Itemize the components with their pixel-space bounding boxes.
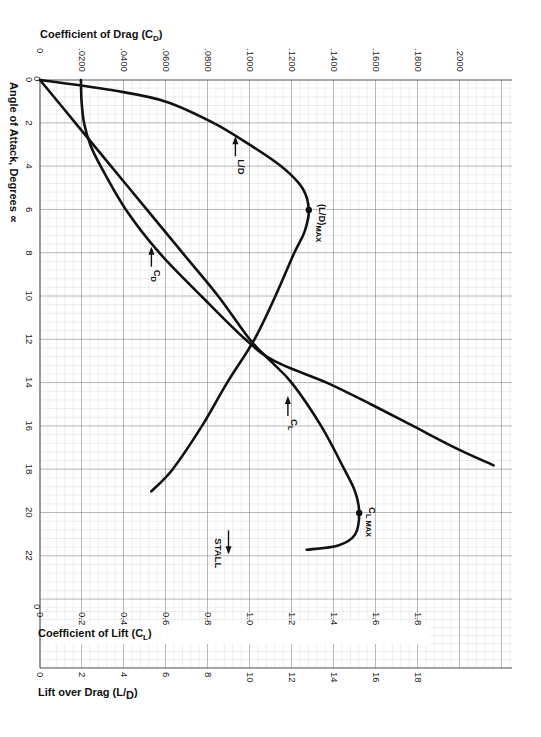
lift-tick-label: 1.6: [371, 612, 382, 625]
angle-tick-label: 16: [24, 420, 35, 431]
angle-tick-label: 2: [24, 120, 35, 125]
lift-tick-label: 1.4: [329, 612, 340, 625]
main-grid: [40, 80, 512, 608]
lift-tick-label: 1.8: [413, 612, 424, 625]
angle-tick-label: 6: [24, 207, 35, 212]
lift-over-drag-tick-label: 0: [35, 672, 46, 677]
svg-text:L/D: L/D: [236, 159, 247, 174]
drag-tick-label: .0200: [77, 48, 88, 72]
angle-tick-label: 20: [24, 507, 35, 518]
lift-over-drag-tick-label: 12: [287, 672, 298, 683]
lift-tick-label: 0.2: [77, 612, 88, 625]
lift-over-drag-tick-label: 8: [203, 672, 214, 677]
lift-over-drag-tick-label: 16: [371, 672, 382, 683]
drag-tick-label: .0800: [203, 48, 214, 72]
lift-over-drag-tick-label: 18: [413, 672, 424, 683]
svg-text:Lift over Drag (L/D): Lift over Drag (L/D): [38, 686, 138, 701]
lift-over-drag-tick-label: 14: [329, 672, 340, 683]
drag-tick-label: .1600: [371, 48, 382, 72]
lift-over-drag-tick-label: 6: [161, 672, 172, 677]
lift-over-drag-tick-label: 2: [77, 672, 88, 677]
angle-axis-title: Angle of Attack, Degrees ∝: [8, 82, 20, 223]
lift-tick-label: 0: [35, 612, 46, 617]
angle-tick-label: 0: [32, 604, 43, 609]
drag-axis-ticks: 0.0200.0400.0600.0800.1000.1200.1400.160…: [35, 48, 466, 72]
drag-tick-label: .0600: [161, 48, 172, 72]
drag-tick-label: .1800: [413, 48, 424, 72]
lift-over-drag-tick-label: 10: [245, 672, 256, 683]
drag-tick-label: 0: [35, 48, 46, 53]
lift-over-drag-axis-ticks: 024681012141618: [35, 672, 424, 683]
angle-tick-label: 12: [24, 334, 35, 345]
aero-performance-chart: Coefficient of Drag (CD) 0.0200.0400.060…: [0, 0, 541, 737]
angle-tick-label: 0: [24, 77, 35, 82]
drag-tick-label: .1400: [329, 48, 340, 72]
angle-tick-label: 22: [24, 550, 35, 561]
svg-text:Coefficient of Drag (CD): Coefficient of Drag (CD): [40, 28, 163, 43]
angle-tick-label: 18: [24, 464, 35, 475]
drag-tick-label: .1000: [245, 48, 256, 72]
drag-tick-label: .1200: [287, 48, 298, 72]
lift-tick-label: 1.0: [245, 612, 256, 625]
angle-tick-label: 4: [24, 164, 35, 169]
drag-tick-label: .0400: [119, 48, 130, 72]
lift-over-drag-axis-title: Lift over Drag (L/D): [38, 686, 138, 701]
drag-axis-title: Coefficient of Drag (CD): [40, 28, 163, 43]
angle-tick-label: 8: [24, 250, 35, 255]
lift-tick-label: 0.4: [119, 612, 130, 625]
angle-tick-label: 10: [24, 291, 35, 302]
lift-tick-label: 0.6: [161, 612, 172, 625]
svg-text:STALL: STALL: [213, 538, 224, 568]
angle-tick-label: 14: [24, 377, 35, 388]
lift-over-drag-tick-label: 4: [119, 672, 130, 677]
drag-tick-label: .2000: [455, 48, 466, 72]
svg-text:Angle of Attack, Degrees ∝: Angle of Attack, Degrees ∝: [8, 82, 20, 223]
lift-tick-label: 0.8: [203, 612, 214, 625]
lift-tick-label: 1.2: [287, 612, 298, 625]
